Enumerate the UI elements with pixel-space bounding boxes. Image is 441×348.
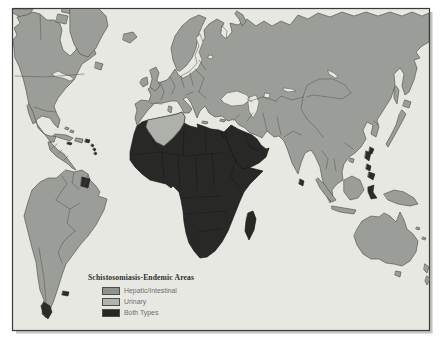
- legend-row-urinary: Urinary: [102, 298, 236, 306]
- legend-swatch-urinary: [102, 298, 120, 306]
- legend-row-hepatic-intestinal: Hepatic/Intestinal: [102, 287, 236, 295]
- legend-label-hepatic-intestinal: Hepatic/Intestinal: [124, 287, 177, 295]
- legend-swatch-both-types: [102, 309, 120, 317]
- legend-label-urinary: Urinary: [124, 298, 146, 306]
- legend-row-both-types: Both Types: [102, 309, 236, 317]
- scan-shadow-right: [430, 12, 433, 333]
- scanned-map-page: Schistosomiasis-Endemic Areas Hepatic/In…: [0, 0, 441, 348]
- legend-label-both-types: Both Types: [124, 309, 158, 317]
- water-aral-sea: [264, 93, 270, 98]
- focus-falklands: [62, 291, 69, 296]
- map-legend: Schistosomiasis-Endemic Areas Hepatic/In…: [86, 273, 236, 320]
- water-lake-ladoga: [208, 55, 213, 59]
- scan-shadow-bottom: [16, 331, 433, 334]
- legend-title: Schistosomiasis-Endemic Areas: [88, 273, 236, 282]
- landmass-arctic-victoria: [56, 14, 68, 24]
- legend-swatch-hepatic-intestinal: [102, 287, 120, 295]
